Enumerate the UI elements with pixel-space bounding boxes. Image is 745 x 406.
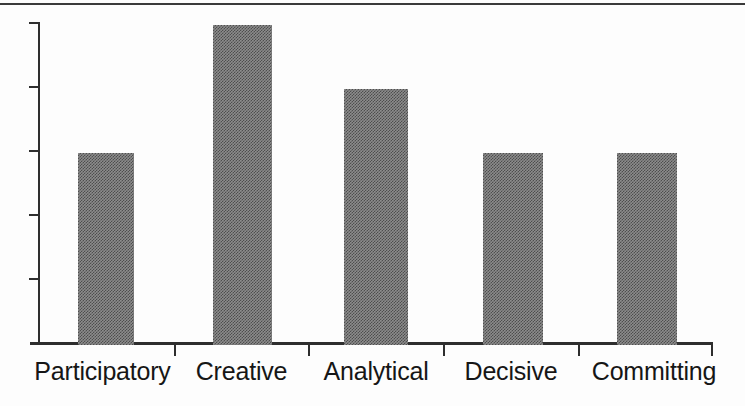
x-axis-label-participatory: Participatory bbox=[30, 356, 175, 386]
x-axis-label-decisive: Decisive bbox=[444, 356, 578, 386]
y-axis-tick-3 bbox=[29, 150, 40, 152]
y-axis-line bbox=[38, 22, 40, 345]
x-axis-tick-3 bbox=[443, 345, 445, 356]
y-axis-tick-4 bbox=[29, 86, 40, 88]
plot-area: Participatory Creative Analytical Decisi… bbox=[0, 0, 745, 406]
bar-analytical bbox=[344, 89, 408, 345]
bar-decisive bbox=[483, 153, 543, 345]
y-axis-tick-5 bbox=[29, 22, 40, 24]
x-axis-tick-1 bbox=[174, 345, 176, 356]
x-axis-tick-2 bbox=[308, 345, 310, 356]
y-axis-tick-2 bbox=[29, 214, 40, 216]
bar-participatory bbox=[78, 153, 134, 345]
bar-creative bbox=[213, 25, 272, 345]
x-axis-tick-4 bbox=[578, 345, 580, 356]
x-axis-label-creative: Creative bbox=[175, 356, 308, 386]
bar-committing bbox=[617, 153, 677, 345]
y-axis-tick-1 bbox=[29, 278, 40, 280]
x-axis-label-committing: Committing bbox=[579, 356, 729, 386]
bar-chart-figure: Participatory Creative Analytical Decisi… bbox=[0, 0, 745, 406]
x-axis-label-analytical: Analytical bbox=[309, 356, 443, 386]
x-axis-tick-5 bbox=[711, 345, 713, 356]
